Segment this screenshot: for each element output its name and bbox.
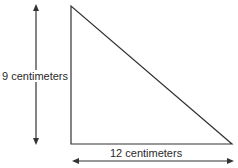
right-triangle xyxy=(71,6,232,144)
height-label: 9 centimeters xyxy=(2,70,68,82)
triangle-diagram xyxy=(0,0,238,168)
base-label: 12 centimeters xyxy=(110,147,182,159)
